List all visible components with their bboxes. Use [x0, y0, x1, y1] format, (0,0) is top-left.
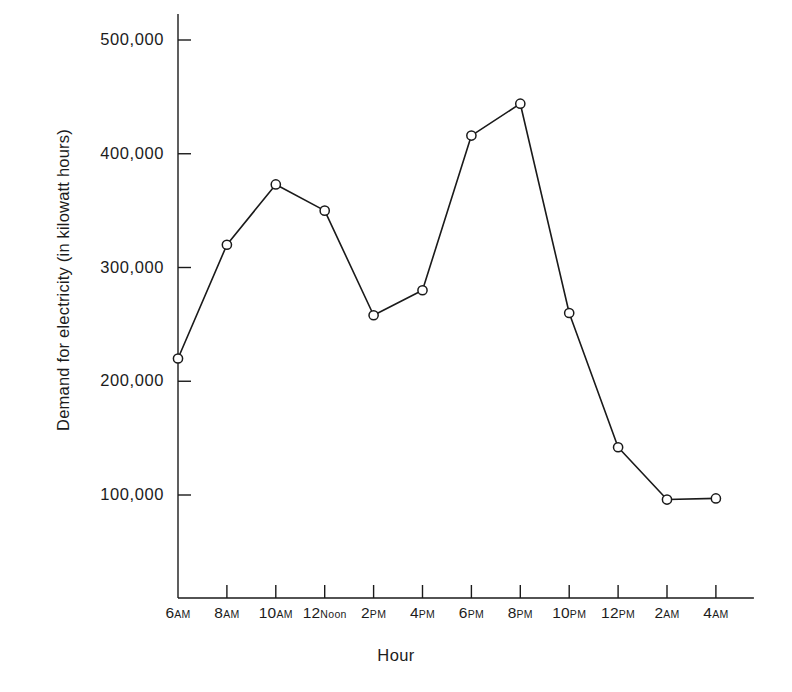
y-tick-label: 200,000 [54, 371, 164, 390]
x-tick-label: 6AM [165, 604, 190, 622]
x-tick-hour: 10 [552, 604, 570, 621]
x-tick-hour: 2 [361, 604, 370, 621]
x-tick-label: 12Noon [303, 604, 347, 622]
x-tick-meridiem: AM [223, 608, 239, 620]
x-tick-meridiem: PM [619, 608, 635, 620]
data-point-marker [173, 354, 182, 363]
data-point-marker [662, 495, 671, 504]
data-point-marker [516, 99, 525, 108]
data-point-marker [711, 494, 720, 503]
x-tick-meridiem: PM [419, 608, 435, 620]
x-tick-hour: 10 [259, 604, 277, 621]
axes [178, 14, 754, 598]
x-tick-hour: 6 [459, 604, 468, 621]
x-tick-label: 8PM [508, 604, 533, 622]
x-tick-label: 10AM [259, 604, 293, 622]
x-tick-hour: 8 [508, 604, 517, 621]
x-tick-hour: 4 [410, 604, 419, 621]
plot-area [0, 0, 792, 692]
x-tick-label: 6PM [459, 604, 484, 622]
x-tick-hour: 2 [654, 604, 663, 621]
x-tick-label: 4AM [703, 604, 728, 622]
data-point-marker [271, 180, 280, 189]
y-tick-label: 500,000 [54, 30, 164, 49]
x-tick-meridiem: PM [468, 608, 484, 620]
data-point-marker [467, 131, 476, 140]
data-point-marker [320, 206, 329, 215]
x-tick-meridiem: AM [276, 608, 292, 620]
x-tick-label: 10PM [552, 604, 586, 622]
x-tick-meridiem: Noon [320, 608, 346, 620]
x-tick-label: 4PM [410, 604, 435, 622]
chart-figure: Demand for electricity (in kilowatt hour… [0, 0, 792, 692]
x-tick-hour: 6 [165, 604, 174, 621]
y-tick-label: 100,000 [54, 485, 164, 504]
x-axis-title: Hour [0, 646, 792, 665]
x-tick-meridiem: PM [370, 608, 386, 620]
x-tick-hour: 12 [303, 604, 321, 621]
data-point-marker [565, 308, 574, 317]
data-series [173, 99, 720, 504]
x-tick-meridiem: AM [174, 608, 190, 620]
x-tick-label: 2AM [654, 604, 679, 622]
x-tick-label: 2PM [361, 604, 386, 622]
x-tick-meridiem: AM [663, 608, 679, 620]
x-tick-hour: 4 [703, 604, 712, 621]
x-tick-meridiem: PM [517, 608, 533, 620]
x-tick-meridiem: AM [712, 608, 728, 620]
x-tick-meridiem: PM [570, 608, 586, 620]
data-point-marker [222, 240, 231, 249]
y-tick-label: 400,000 [54, 144, 164, 163]
series-line [178, 104, 716, 500]
y-tick-label: 300,000 [54, 258, 164, 277]
x-tick-label: 8AM [214, 604, 239, 622]
data-point-marker [614, 443, 623, 452]
data-point-marker [418, 286, 427, 295]
x-tick-hour: 12 [601, 604, 619, 621]
x-tick-label: 12PM [601, 604, 635, 622]
data-point-marker [369, 311, 378, 320]
x-tick-hour: 8 [214, 604, 223, 621]
